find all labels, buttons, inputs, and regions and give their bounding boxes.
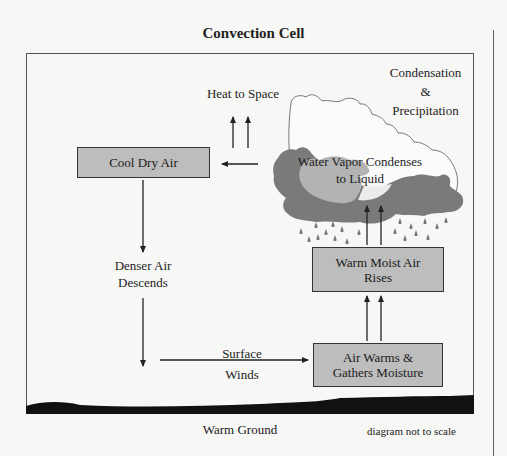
heat-to-space-label: Heat to Space: [196, 85, 290, 102]
denser-air-label: Denser Air Descends: [103, 257, 183, 291]
water-vapor-line-1: Water Vapor Condenses: [290, 153, 430, 170]
surface-winds-line-2: Winds: [212, 364, 272, 385]
air-warms-label-2: Gathers Moisture: [333, 365, 424, 380]
denser-air-line-1: Denser Air: [103, 257, 183, 274]
air-warms-label-1: Air Warms &: [343, 350, 413, 365]
surface-winds-line-1: Surface: [212, 343, 272, 364]
condensation-line-1: Condensation: [378, 63, 473, 82]
warm-moist-air-box: Warm Moist Air Rises: [312, 247, 444, 292]
surface-winds-label: Surface Winds: [212, 343, 272, 385]
warm-moist-air-label-1: Warm Moist Air: [336, 255, 421, 270]
denser-air-line-2: Descends: [103, 274, 183, 291]
ground: [26, 395, 474, 414]
air-warms-box: Air Warms & Gathers Moisture: [313, 343, 443, 387]
cool-dry-air-box: Cool Dry Air: [77, 147, 210, 178]
condensation-line-3: Precipitation: [378, 101, 473, 120]
not-to-scale-note: diagram not to scale: [367, 425, 487, 437]
water-vapor-line-2: to Liquid: [290, 170, 430, 187]
water-vapor-label: Water Vapor Condenses to Liquid: [290, 153, 430, 187]
condensation-line-2: &: [378, 82, 473, 101]
warm-moist-air-label-2: Rises: [364, 270, 392, 285]
condensation-label: Condensation & Precipitation: [378, 63, 473, 120]
warm-ground-label: Warm Ground: [180, 421, 300, 438]
cool-dry-air-label: Cool Dry Air: [109, 155, 178, 170]
